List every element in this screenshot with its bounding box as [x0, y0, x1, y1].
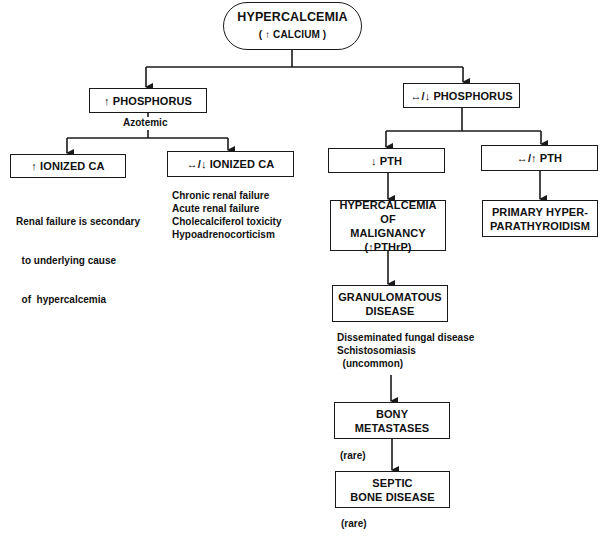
node-line: HYPERCALCEMIA OF — [331, 198, 445, 226]
node-line: BONY — [376, 407, 408, 421]
note-line: to underlying cause — [16, 254, 140, 267]
node-decreased-pth: ↓ PTH — [328, 148, 445, 173]
node-label: ↓ PTH — [371, 154, 402, 168]
note-renal-causes: Chronic renal failure Acute renal failur… — [172, 189, 281, 241]
node-label: ↔/↓ PHOSPHORUS — [410, 89, 512, 103]
note-line: Chronic renal failure — [172, 189, 281, 202]
note-line: Acute renal failure — [172, 202, 281, 215]
node-normal-low-phosphorus: ↔/↓ PHOSPHORUS — [403, 83, 520, 108]
node-line: GRANULOMATOUS — [338, 290, 442, 304]
note-line: Renal failure is secondary — [16, 215, 140, 228]
note-line: Hypoadrenocorticism — [172, 228, 281, 241]
note-line: Disseminated fungal disease — [337, 331, 474, 344]
note-azotemic: Azotemic — [123, 116, 167, 129]
note-line: Cholecalciferol toxicity — [172, 215, 281, 228]
node-line: (↑PTHrP) — [364, 240, 411, 254]
node-line: SEPTIC — [372, 476, 412, 490]
node-line: PRIMARY HYPER- — [492, 205, 588, 219]
note-line: (rare) — [341, 517, 367, 530]
node-line: DISEASE — [366, 304, 415, 318]
note-line: (rare) — [340, 449, 366, 462]
node-normal-low-ionized-ca: ↔/↓ IONIZED CA — [167, 151, 294, 177]
node-normal-high-pth: ↔/↑ PTH — [481, 145, 598, 171]
note-granulomatous-causes: Disseminated fungal disease Schistosomia… — [337, 331, 474, 370]
node-line: BONE DISEASE — [350, 490, 434, 504]
node-line: MALIGNANCY — [350, 226, 426, 240]
note-text: Azotemic — [123, 116, 167, 129]
node-hypercalcemia-of-malignancy: HYPERCALCEMIA OF MALIGNANCY (↑PTHrP) — [330, 200, 446, 251]
note-line: Schistosomiasis — [337, 344, 474, 357]
node-label: ↑ PHOSPHORUS — [104, 94, 192, 108]
node-primary-hyperparathyroidism: PRIMARY HYPER- PARATHYROIDISM — [482, 200, 598, 237]
note-line: (uncommon) — [337, 357, 474, 370]
root-subtitle: ( ↑ CALCIUM ) — [259, 26, 326, 43]
note-line: of hypercalcemia — [16, 293, 140, 306]
node-increased-phosphorus: ↑ PHOSPHORUS — [89, 88, 207, 113]
root-title: HYPERCALCEMIA — [237, 9, 347, 26]
node-increased-ionized-ca: ↑ IONIZED CA — [10, 154, 126, 178]
node-label: ↔/↓ IONIZED CA — [187, 157, 275, 171]
node-line: PARATHYROIDISM — [490, 219, 590, 233]
note-septic-rare: (rare) — [341, 517, 367, 530]
node-septic-bone-disease: SEPTIC BONE DISEASE — [335, 471, 450, 508]
root-node-hypercalcemia: HYPERCALCEMIA ( ↑ CALCIUM ) — [223, 2, 362, 50]
note-bony-rare: (rare) — [340, 449, 366, 462]
note-renal-secondary: Renal failure is secondary to underlying… — [16, 189, 140, 332]
node-bony-metastases: BONY METASTASES — [334, 402, 450, 439]
node-label: ↑ IONIZED CA — [31, 159, 104, 173]
node-label: ↔/↑ PTH — [517, 151, 562, 165]
hypercalcemia-flowchart: HYPERCALCEMIA ( ↑ CALCIUM ) ↑ PHOSPHORUS… — [0, 0, 606, 536]
node-granulomatous-disease: GRANULOMATOUS DISEASE — [332, 285, 448, 322]
node-line: METASTASES — [355, 421, 430, 435]
